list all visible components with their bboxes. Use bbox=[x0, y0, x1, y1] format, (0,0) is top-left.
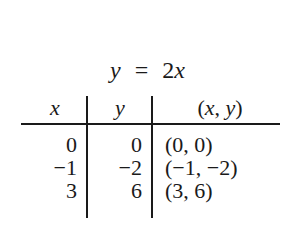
header-pair: (x, y) bbox=[170, 97, 270, 119]
row-1-pair: (0, 0) bbox=[165, 134, 213, 156]
row-1-y: 0 bbox=[131, 134, 142, 156]
header-x: x bbox=[40, 97, 70, 119]
header-rule bbox=[21, 123, 280, 125]
row-2-y: −2 bbox=[119, 157, 142, 179]
row-3-pair: (3, 6) bbox=[165, 180, 213, 202]
equation-lhs: y bbox=[110, 57, 121, 83]
header-y: y bbox=[105, 97, 135, 119]
row-3-x: 3 bbox=[66, 180, 77, 202]
row-2-x: −1 bbox=[54, 157, 77, 179]
column-divider-2 bbox=[151, 96, 153, 218]
equation-equals: = bbox=[135, 57, 149, 83]
column-divider-1 bbox=[86, 96, 88, 218]
row-3-y: 6 bbox=[131, 180, 142, 202]
row-1-x: 0 bbox=[66, 134, 77, 156]
equation-title: y = 2x bbox=[0, 56, 295, 84]
row-2-pair: (−1, −2) bbox=[165, 157, 237, 179]
equation-rhs: 2x bbox=[162, 57, 185, 83]
